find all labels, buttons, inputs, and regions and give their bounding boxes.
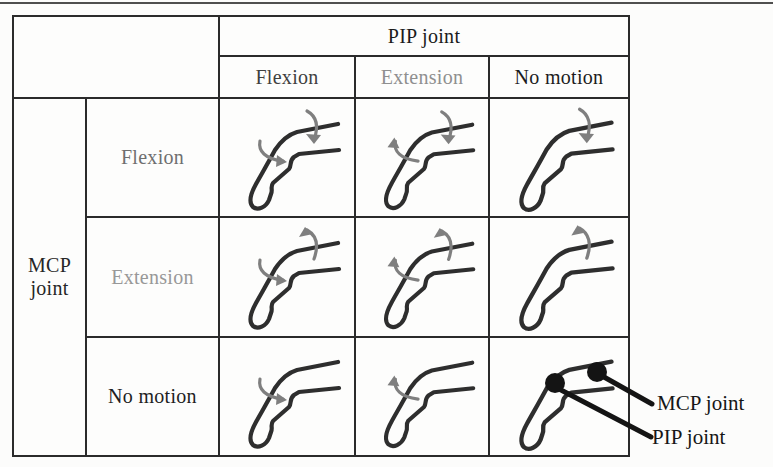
mcp-joint-group-header: MCP joint [13,98,86,456]
finger-outline [250,124,339,209]
finger-diagram [490,218,628,335]
finger-diagram [220,339,354,453]
finger-outline [521,242,612,329]
finger-outline [386,363,473,446]
col-header-pip-no-motion: No motion [489,56,629,98]
cell-mcp-flexion-pip-no-motion [489,98,629,217]
mcp-joint-callout-label: MCP joint [657,391,744,416]
pip-arrowhead [388,376,400,387]
finger-outline [250,243,339,328]
figure-canvas: PIP joint Flexion Extension No motion MC… [0,0,773,467]
pip-arrowhead [388,256,400,267]
finger-diagram [490,99,628,216]
col-header-pip-flexion: Flexion [219,56,355,98]
cell-mcp-no-motion-pip-flexion [219,337,355,456]
pip-arrowhead [276,274,287,286]
cell-mcp-flexion-pip-flexion [219,98,355,217]
finger-outline [386,244,473,327]
finger-diagram [356,102,488,214]
finger-diagram [356,340,488,452]
row-header-mcp-flexion: Flexion [86,98,219,217]
page-top-rule [0,2,773,4]
pip-joint-group-header: PIP joint [219,16,629,56]
pip-joint-callout-label: PIP joint [652,425,725,450]
pip-arrowhead [276,155,287,167]
cell-mcp-no-motion-pip-no-motion [489,337,629,456]
cell-mcp-extension-pip-flexion [219,217,355,336]
mcp-arrowhead [579,133,594,143]
col-header-pip-extension: Extension [355,56,489,98]
pip-arrowhead [276,393,287,405]
finger-diagram [490,338,628,455]
row-header-mcp-no-motion: No motion [86,337,219,456]
finger-outline [521,123,612,210]
pip-arrowhead [388,137,400,148]
motion-combination-table: PIP joint Flexion Extension No motion MC… [12,15,630,457]
cell-mcp-flexion-pip-extension [355,98,489,217]
cell-mcp-extension-pip-extension [355,217,489,336]
finger-diagram [220,220,354,334]
corner-cell [13,16,219,98]
finger-outline [250,362,339,447]
cell-mcp-no-motion-pip-extension [355,337,489,456]
mcp-arrowhead [306,134,321,144]
finger-outline [521,361,612,448]
finger-diagram [220,101,354,215]
cell-mcp-extension-pip-no-motion [489,217,629,336]
row-header-mcp-extension: Extension [86,217,219,336]
finger-diagram [356,221,488,333]
mcp-arrowhead [441,134,456,144]
finger-outline [386,124,473,207]
